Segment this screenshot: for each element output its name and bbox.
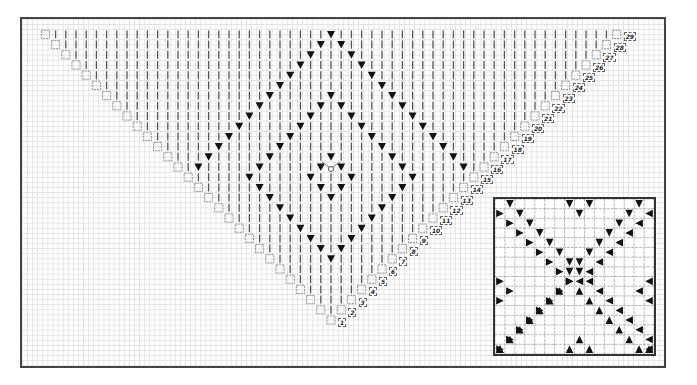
row-label: 15 [481, 175, 493, 184]
row-label: 12 [450, 206, 462, 215]
row-label: 9 [420, 236, 428, 245]
row-label: 28 [614, 43, 626, 52]
row-label: 13 [461, 196, 473, 205]
row-label: 25 [583, 73, 595, 82]
row-label: 21 [542, 114, 554, 123]
row-label: 5 [379, 277, 387, 286]
row-label: 19 [522, 134, 534, 143]
inset-chart [493, 197, 656, 356]
row-label: 18 [512, 145, 524, 154]
row-label: 27 [603, 53, 615, 62]
row-label: 2 [348, 308, 356, 317]
row-label: 16 [491, 165, 503, 174]
row-label: 6 [389, 267, 397, 276]
row-label: 3 [359, 298, 367, 307]
row-label: 26 [593, 63, 605, 72]
inset-pattern [495, 199, 654, 354]
row-label: 8 [410, 247, 418, 256]
row-label: 10 [430, 226, 442, 235]
row-label: 20 [532, 124, 544, 133]
row-label: 29 [624, 32, 636, 41]
row-label: 4 [369, 287, 377, 296]
row-label: 17 [501, 155, 513, 164]
row-label: 1 [338, 318, 346, 327]
row-label: 24 [573, 83, 585, 92]
row-label: 7 [399, 257, 407, 266]
row-label: 22 [552, 104, 564, 113]
row-label: 11 [440, 216, 452, 225]
row-label: 14 [471, 185, 483, 194]
row-label: 23 [563, 94, 575, 103]
